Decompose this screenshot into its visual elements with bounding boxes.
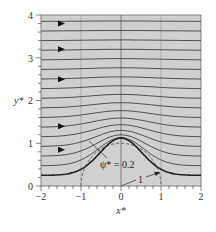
y-tick-label: 0 — [28, 181, 33, 192]
x-tick-label: 0 — [119, 191, 124, 202]
x-tick-label: 2 — [199, 191, 204, 202]
x-tick-labels: −2 −1 0 1 2 — [36, 191, 204, 202]
radius-label: 1 — [138, 174, 143, 185]
y-tick-label: 4 — [28, 10, 33, 21]
x-tick-label: −1 — [76, 191, 87, 202]
streamline-chart: ψ* = 0.2 1 −2 −1 0 1 2 0 1 2 3 4 x* y* — [0, 0, 216, 232]
x-tick-label: 1 — [159, 191, 164, 202]
y-tick-label: 3 — [28, 53, 33, 64]
y-tick-labels: 0 1 2 3 4 — [28, 10, 33, 192]
psi-label: ψ* = 0.2 — [100, 159, 134, 170]
streamline — [41, 31, 201, 32]
x-tick-label: −2 — [36, 191, 47, 202]
x-axis-label: x* — [115, 205, 125, 216]
y-axis-label: y* — [13, 95, 23, 106]
y-tick-label: 2 — [28, 95, 33, 106]
y-tick-label: 1 — [28, 138, 33, 149]
